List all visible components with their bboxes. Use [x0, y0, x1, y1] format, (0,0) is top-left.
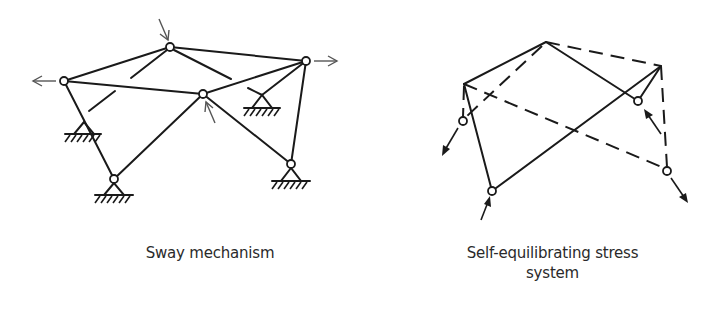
pin-support-mid-right: [244, 95, 280, 116]
member-left-top: [64, 47, 170, 81]
caption-right-line2: system: [455, 263, 650, 283]
hinge-inner-right: [634, 97, 642, 105]
member-right-leg: [291, 61, 306, 164]
sway-mechanism-diagram: [33, 19, 337, 203]
hinge-far-right: [663, 167, 671, 175]
caption-sway-mechanism: Sway mechanism: [110, 243, 310, 263]
member-right-inner: [640, 66, 661, 98]
hinge-lower-left: [459, 117, 467, 125]
member-left-apex: [464, 42, 546, 84]
self-equilibrating-diagram: [442, 42, 688, 220]
member-right-to-support: [262, 61, 306, 95]
hinge-bottom-right: [287, 160, 295, 168]
hinge-bottom: [488, 187, 496, 195]
arrow-left-icon: [33, 76, 56, 86]
member-center-right-leg: [203, 94, 291, 164]
hinge-left: [60, 77, 68, 85]
member-left-leg: [64, 81, 114, 179]
dashed-right-farright: [661, 66, 667, 167]
arrow-right-icon: [314, 56, 337, 66]
arrow-up-icon: [205, 102, 215, 123]
member-left-bottom: [464, 84, 492, 191]
dashed-left-lowerleft: [463, 86, 464, 117]
caption-right-line1: Self-equilibrating stress: [455, 243, 650, 263]
arrow-down-icon: [159, 19, 169, 40]
hinge-center: [199, 90, 207, 98]
arrow-up-left-icon: [644, 109, 661, 134]
arrow-up-bottom-icon: [481, 196, 491, 220]
member-center-leg: [114, 94, 203, 179]
arrow-down-right-icon: [671, 178, 688, 203]
member-bottom-right: [492, 66, 661, 191]
pin-support-bottom-left: [95, 183, 133, 203]
member-top-to-support-right: [174, 50, 231, 79]
dashed-left-farright: [464, 84, 664, 168]
member-left-center: [64, 81, 203, 94]
hinge-right: [302, 57, 310, 65]
hinge-top: [166, 43, 174, 51]
member-support-right-stub: [248, 88, 262, 95]
arrow-down-left-icon: [442, 128, 458, 156]
dashed-apex-lowerleft: [466, 46, 542, 117]
member-hidden-segment-2: [89, 91, 115, 111]
pin-support-bottom-right: [272, 168, 310, 189]
member-center-right: [203, 61, 306, 94]
pin-support-mid-left: [65, 122, 101, 142]
hinge-bottom-left: [110, 175, 118, 183]
caption-left-text: Sway mechanism: [146, 244, 275, 262]
caption-self-equilibrating: Self-equilibrating stress system: [455, 243, 650, 283]
